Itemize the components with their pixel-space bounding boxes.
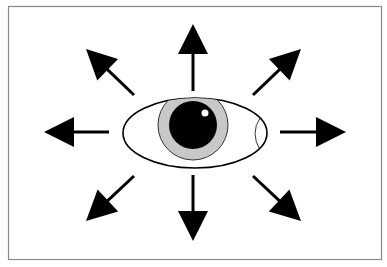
diagram-canvas [0, 0, 387, 267]
eye-pupil [169, 101, 217, 149]
eye-highlight [202, 110, 209, 117]
eye-diagram [0, 0, 387, 267]
